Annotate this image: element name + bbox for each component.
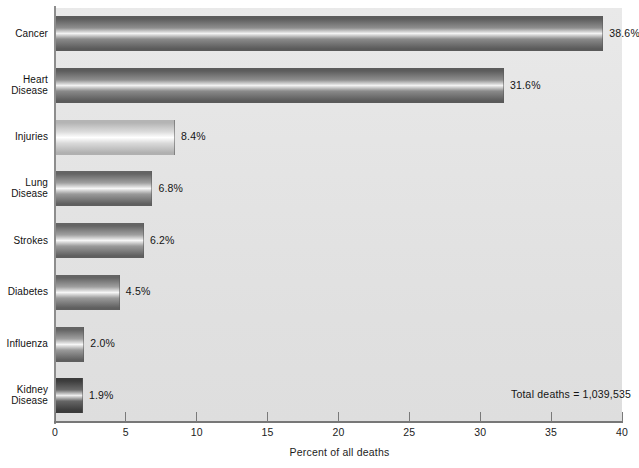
category-label-line-2: Disease: [0, 395, 48, 407]
category-label-line-1: Diabetes: [0, 286, 48, 298]
x-tick-mark: [267, 412, 268, 422]
bar-heart-disease: [56, 68, 504, 103]
category-label-line-1: Influenza: [0, 338, 48, 350]
x-tick-label: 35: [545, 426, 557, 438]
bar-influenza: [56, 327, 84, 362]
bar-value-injuries: 8.4%: [181, 130, 206, 142]
category-label-line-1: Lung: [0, 177, 48, 189]
x-axis-title: Percent of all deaths: [0, 446, 639, 458]
bar-injuries: [56, 120, 175, 155]
x-axis-title-text: Percent of all deaths: [290, 446, 390, 458]
x-tick-label: 5: [123, 426, 129, 438]
x-tick-mark: [338, 412, 339, 422]
x-tick-mark: [480, 412, 481, 422]
category-label-line-1: Heart: [0, 74, 48, 86]
category-label-cancer: Cancer: [0, 28, 48, 40]
bar-value-strokes: 6.2%: [150, 234, 175, 246]
bar-chart: 0510152025303540 Cancer38.6%HeartDisease…: [0, 0, 639, 468]
bar-value-influenza: 2.0%: [90, 337, 115, 349]
x-tick-mark: [55, 412, 56, 422]
x-tick-label: 20: [332, 426, 344, 438]
category-label-heart-disease: HeartDisease: [0, 74, 48, 97]
bar-kidney-disease: [56, 378, 83, 413]
x-tick-label: 15: [262, 426, 274, 438]
bar-lung-disease: [56, 171, 152, 206]
bar-value-lung-disease: 6.8%: [158, 182, 183, 194]
category-label-strokes: Strokes: [0, 235, 48, 247]
category-label-line-2: Disease: [0, 188, 48, 200]
bar-value-diabetes: 4.5%: [126, 285, 151, 297]
bar-value-cancer: 38.6%: [609, 27, 639, 39]
x-tick-mark: [196, 412, 197, 422]
category-label-line-1: Cancer: [0, 28, 48, 40]
x-tick-mark: [551, 412, 552, 422]
x-tick-label: 30: [474, 426, 486, 438]
x-tick-mark: [409, 412, 410, 422]
x-tick-label: 0: [52, 426, 58, 438]
x-tick-label: 25: [403, 426, 415, 438]
category-label-line-2: Disease: [0, 85, 48, 97]
x-tick-mark: [125, 412, 126, 422]
total-deaths-annotation: Total deaths = 1,039,535: [511, 388, 631, 400]
category-label-line-1: Kidney: [0, 384, 48, 396]
bar-diabetes: [56, 275, 120, 310]
bar-value-heart-disease: 31.6%: [510, 79, 541, 91]
category-label-influenza: Influenza: [0, 338, 48, 350]
category-label-kidney-disease: KidneyDisease: [0, 384, 48, 407]
x-tick-label: 10: [191, 426, 203, 438]
x-tick-mark: [622, 412, 623, 422]
category-label-line-1: Injuries: [0, 131, 48, 143]
category-label-lung-disease: LungDisease: [0, 177, 48, 200]
category-label-injuries: Injuries: [0, 131, 48, 143]
category-label-diabetes: Diabetes: [0, 286, 48, 298]
bar-strokes: [56, 223, 144, 258]
bar-value-kidney-disease: 1.9%: [89, 389, 114, 401]
x-tick-label: 40: [616, 426, 628, 438]
category-label-line-1: Strokes: [0, 235, 48, 247]
bar-cancer: [56, 16, 603, 51]
